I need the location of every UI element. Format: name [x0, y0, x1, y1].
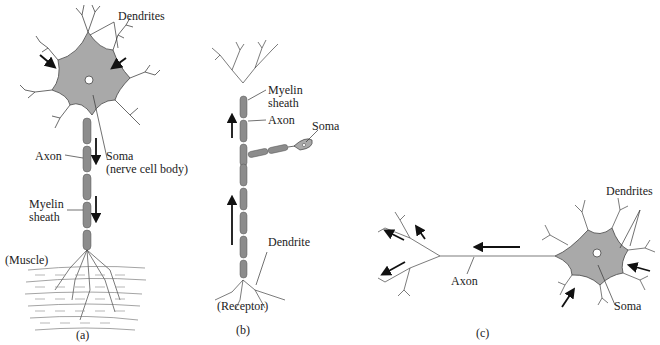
caption-a: (a)	[76, 328, 89, 343]
neuron-illustration	[0, 0, 660, 345]
label-dendrite-b: Dendrite	[268, 236, 310, 249]
caption-c: (c)	[476, 326, 489, 341]
label-soma-b: Soma	[312, 120, 339, 133]
neuron-diagram: Dendrites Axon Soma (nerve cell body) My…	[0, 0, 660, 345]
label-soma-a-sub: (nerve cell body)	[106, 163, 188, 176]
caption-b: (b)	[236, 323, 250, 338]
label-sheath-b: sheath	[268, 97, 299, 110]
label-axon-a: Axon	[35, 150, 62, 163]
label-axon-c: Axon	[451, 275, 478, 288]
panel-a-axon	[83, 118, 91, 250]
label-soma-c: Soma	[614, 300, 641, 313]
label-sheath-a: sheath	[29, 211, 60, 224]
label-dendrites-c: Dendrites	[606, 185, 653, 198]
panel-a-soma	[52, 32, 130, 115]
label-axon-b: Axon	[268, 114, 295, 127]
panel-c-soma	[555, 228, 628, 285]
label-dendrites-a: Dendrites	[118, 10, 165, 23]
label-receptor: (Receptor)	[217, 300, 268, 313]
muscle-fibers	[25, 266, 146, 330]
label-muscle: (Muscle)	[5, 254, 48, 267]
